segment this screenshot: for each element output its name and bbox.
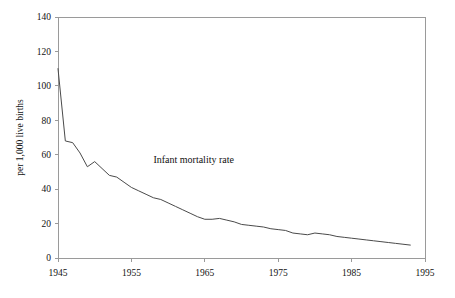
x-axis-ticks <box>58 258 425 262</box>
infant-mortality-line-chart: 020406080100120140 194519551965197519851… <box>0 0 455 298</box>
y-tick-label: 40 <box>42 184 52 194</box>
chart-page: 020406080100120140 194519551965197519851… <box>0 0 455 298</box>
y-tick-label: 100 <box>37 81 52 91</box>
x-tick-label: 1965 <box>195 268 214 278</box>
x-axis-tick-labels: 194519551965197519851995 <box>49 268 435 278</box>
y-tick-label: 60 <box>42 150 52 160</box>
y-tick-label: 0 <box>46 253 51 263</box>
y-axis-title: per 1,000 live births <box>15 99 25 176</box>
x-tick-label: 1985 <box>342 268 361 278</box>
x-tick-label: 1995 <box>416 268 435 278</box>
y-axis-tick-labels: 020406080100120140 <box>37 12 52 263</box>
x-tick-label: 1945 <box>49 268 68 278</box>
y-tick-label: 140 <box>37 12 52 22</box>
y-tick-label: 20 <box>42 219 52 229</box>
x-tick-label: 1955 <box>122 268 141 278</box>
y-axis-ticks <box>55 17 59 258</box>
x-tick-label: 1975 <box>269 268 288 278</box>
series-annotation-infant-mortality-rate: Infant mortality rate <box>153 154 234 165</box>
y-tick-label: 120 <box>37 47 52 57</box>
plot-frame-border <box>58 17 425 258</box>
plot-frame <box>58 17 425 258</box>
y-tick-label: 80 <box>42 116 52 126</box>
data-series-line-infant-mortality-rate <box>58 69 410 245</box>
